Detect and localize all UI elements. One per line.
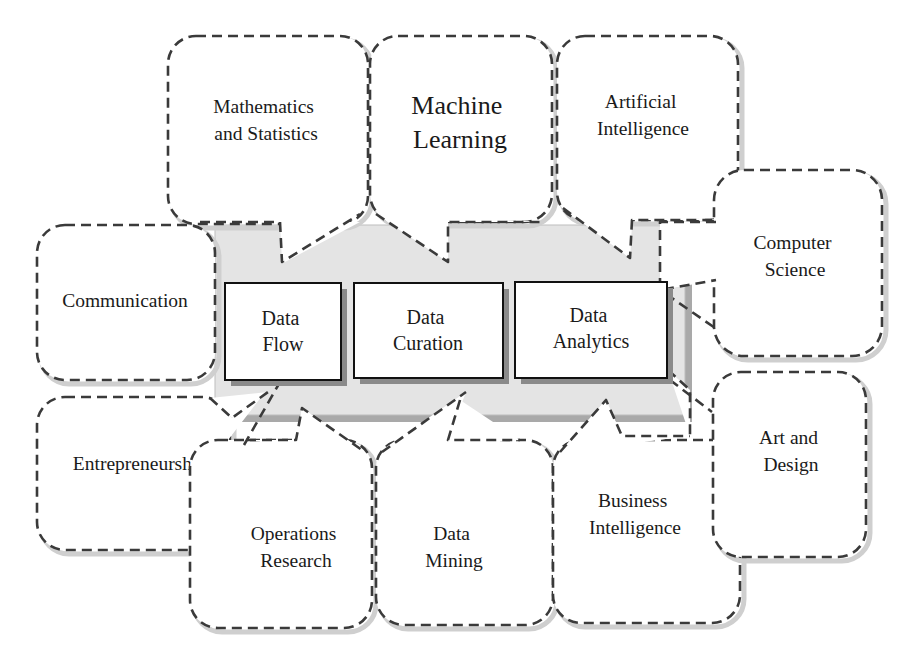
bubble-machine-learning: Machine Learning xyxy=(370,36,556,262)
label-communication: Communication xyxy=(62,290,188,311)
core-box-data-analytics: Data Analytics xyxy=(515,282,673,384)
data-science-diagram: Mathematics and Statistics Machine Learn… xyxy=(0,0,913,666)
core-box-data-flow: Data Flow xyxy=(225,283,347,386)
bubble-data-mining: Data Mining xyxy=(376,392,557,629)
core-box-data-curation: Data Curation xyxy=(354,283,509,384)
bubble-communication: Communication xyxy=(37,225,219,384)
label-entrepreneurship: Entrepreneurship xyxy=(73,453,207,474)
